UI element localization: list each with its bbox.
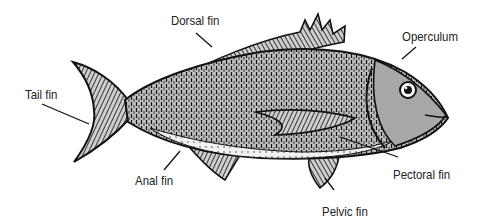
label-pelvic-fin: Pelvic fin — [322, 204, 368, 219]
fish-anatomy-diagram: Dorsal fin Operculum Tail fin Anal fin P… — [0, 0, 488, 223]
tail-fin — [73, 62, 130, 162]
label-tail-fin: Tail fin — [25, 87, 57, 102]
label-operculum: Operculum — [402, 29, 458, 44]
fish-head — [374, 60, 446, 146]
label-dorsal-fin: Dorsal fin — [171, 13, 219, 28]
label-anal-fin: Anal fin — [135, 173, 173, 188]
label-pectoral-fin: Pectoral fin — [393, 167, 450, 182]
